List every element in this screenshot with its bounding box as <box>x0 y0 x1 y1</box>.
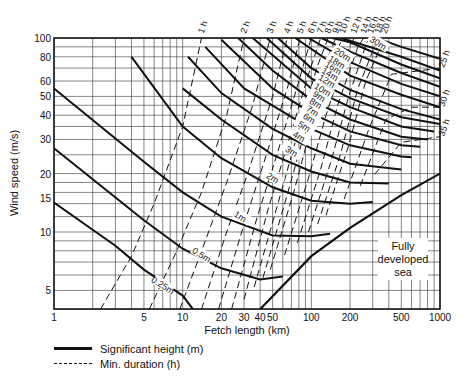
wave-forecast-chart: 1510203040501002005001000510152030405060… <box>0 0 469 378</box>
annotation-line3: sea <box>394 266 413 278</box>
y-tick-label: 60 <box>40 76 52 87</box>
duration-line <box>375 137 440 175</box>
y-tick-label: 20 <box>40 169 52 180</box>
x-tick-label: 500 <box>393 312 410 323</box>
x-tick-label: 5 <box>141 312 147 323</box>
duration-right-label: 35 h <box>436 117 451 137</box>
y-axis-label: Wind speed (m/s) <box>8 130 20 216</box>
x-tick-label: 1 <box>51 312 57 323</box>
duration-top-label: 1 h <box>196 20 210 35</box>
y-tick-label: 40 <box>40 110 52 121</box>
annotation-line1: Fully <box>391 240 415 252</box>
duration-top-label: 2 h <box>239 20 253 35</box>
x-axis-label: Fetch length (km) <box>204 324 290 336</box>
legend-label-duration: Min. duration (h) <box>100 358 180 370</box>
height-line <box>54 148 283 279</box>
y-tick-label: 5 <box>45 285 51 296</box>
x-tick-label: 50 <box>267 312 279 323</box>
x-tick-label: 10 <box>177 312 189 323</box>
y-tick-label: 100 <box>34 33 51 44</box>
x-tick-label: 20 <box>216 312 228 323</box>
duration-right-label: 25 h <box>436 49 451 69</box>
annotation-line2: developed <box>378 253 429 265</box>
duration-line <box>360 107 440 186</box>
legend: Significant height (m) Min. duration (h) <box>54 341 203 371</box>
y-tick-label: 50 <box>40 91 52 102</box>
solid-line-icon <box>54 347 92 350</box>
y-tick-label: 15 <box>40 193 52 204</box>
y-tick-label: 10 <box>40 227 52 238</box>
x-tick-label: 40 <box>255 312 267 323</box>
y-tick-label: 80 <box>40 52 52 63</box>
duration-top-label: 3 h <box>265 20 279 35</box>
x-tick-label: 1000 <box>429 312 452 323</box>
duration-top-label: 4 h <box>282 20 296 35</box>
y-tick-label: 30 <box>40 134 52 145</box>
legend-label-height: Significant height (m) <box>100 343 203 355</box>
x-tick-label: 100 <box>303 312 320 323</box>
legend-item-height: Significant height (m) <box>54 341 203 356</box>
x-tick-label: 200 <box>342 312 359 323</box>
dashed-line-icon <box>54 363 92 364</box>
legend-item-duration: Min. duration (h) <box>54 356 203 371</box>
x-tick-label: 30 <box>238 312 250 323</box>
duration-right-label: 30 h <box>436 88 451 108</box>
